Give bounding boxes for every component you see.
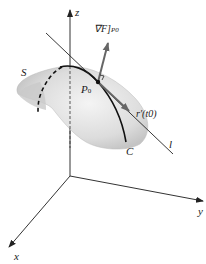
tangent-line-label: l xyxy=(169,139,172,150)
x-axis xyxy=(9,176,70,247)
surface-s xyxy=(17,66,148,149)
y-axis xyxy=(70,176,203,201)
curve-label: C xyxy=(126,146,133,157)
diagram-canvas xyxy=(0,0,206,264)
point-p0 xyxy=(96,80,100,84)
x-axis-label: x xyxy=(14,251,19,262)
z-axis-label: z xyxy=(75,7,79,18)
y-axis-label: y xyxy=(198,206,203,217)
tangent-vector-label: r′(t0) xyxy=(136,109,157,119)
surface-label: S xyxy=(21,67,27,78)
point-label: P0 xyxy=(81,84,91,95)
gradient-label: ∇F]P0 xyxy=(94,24,119,34)
